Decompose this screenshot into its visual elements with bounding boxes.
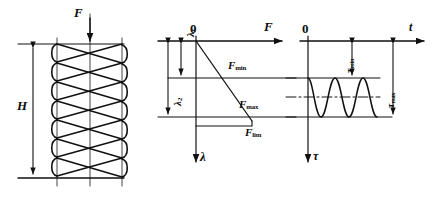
spring-panel bbox=[18, 14, 127, 186]
lambda1-sub: 1 bbox=[189, 29, 196, 32]
tau-max-label: τmax bbox=[386, 93, 396, 108]
lambda2-label: λ2 bbox=[172, 98, 184, 106]
f-max-sub: max bbox=[246, 103, 258, 110]
lambda1-label: λ1 bbox=[185, 29, 197, 37]
spring-height-label: H bbox=[17, 99, 27, 112]
force-axis-label: F bbox=[264, 20, 273, 33]
figure-canvas bbox=[0, 0, 433, 206]
spring-coils bbox=[52, 44, 128, 177]
lambda1-base: λ bbox=[184, 32, 196, 37]
deflection-axis-label: λ bbox=[200, 150, 206, 163]
f-lim-label: Flim bbox=[245, 127, 261, 139]
f-max-label: Fmax bbox=[239, 99, 258, 111]
figure-root: H F 0 F λ λ1 λ2 Fmin Fmax Flim 0 t τ τmi… bbox=[0, 0, 433, 206]
tau-min-label: τmin bbox=[345, 59, 355, 73]
stress-axis-label: τ bbox=[313, 150, 318, 162]
lambda2-sub: 2 bbox=[176, 98, 183, 101]
tau-max-base: τ bbox=[385, 104, 396, 108]
stress-time-panel bbox=[286, 36, 424, 162]
f-min-label: Fmin bbox=[228, 60, 246, 72]
f-lim-sub: lim bbox=[252, 131, 261, 138]
tau-max-sub: max bbox=[389, 93, 396, 104]
tau-min-sub: min bbox=[348, 59, 355, 69]
f-lim-bracket bbox=[196, 121, 252, 126]
stress-chart-origin-label: 0 bbox=[302, 22, 309, 35]
time-axis-label: t bbox=[409, 21, 412, 33]
lambda2-base: λ bbox=[171, 101, 183, 106]
spring-force-label: F bbox=[74, 6, 83, 19]
f-min-sub: min bbox=[235, 64, 246, 71]
tau-min-base: τ bbox=[344, 69, 355, 73]
